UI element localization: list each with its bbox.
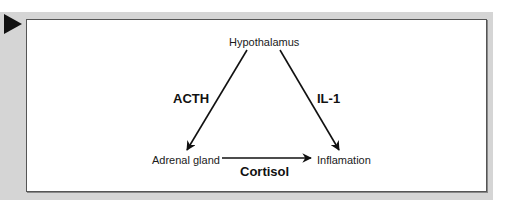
edge-label-il1: IL-1 xyxy=(317,91,340,106)
node-adrenal-gland: Adrenal gland xyxy=(152,154,220,167)
edge-label-acth: ACTH xyxy=(173,91,209,106)
node-hypothalamus: Hypothalamus xyxy=(229,36,299,49)
node-inflammation: Inflamation xyxy=(317,154,371,167)
edge-label-cortisol: Cortisol xyxy=(240,164,289,179)
